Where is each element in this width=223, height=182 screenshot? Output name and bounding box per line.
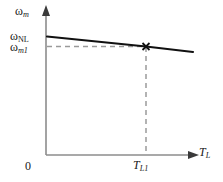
speed-torque-curve [47, 37, 193, 53]
y-tick-m1-subscript: m1 [18, 46, 28, 55]
origin-label: 0 [25, 160, 31, 172]
x-tick-l1-subscript: L1 [140, 164, 149, 173]
y-axis-arrow-icon [42, 5, 50, 16]
speed-torque-characteristic-figure: ωm ωNL ωm1 0 TL1 TL [0, 0, 223, 182]
x-axis-label-subscript: L [206, 151, 211, 160]
y-axis-label-subscript: m [23, 10, 29, 19]
y-axis-label: ωm [15, 5, 29, 17]
x-axis-label-symbol: T [199, 145, 206, 159]
x-tick-label-load-torque-point: TL1 [133, 159, 148, 171]
y-tick-label-operating-speed: ωm1 [10, 41, 28, 53]
y-axis-label-symbol: ω [15, 4, 23, 18]
x-tick-l1-symbol: T [133, 158, 140, 172]
x-axis-arrow-icon [188, 151, 199, 159]
plot-canvas [0, 0, 223, 182]
y-tick-m1-symbol: ω [10, 40, 18, 54]
x-axis-label: TL [199, 146, 210, 158]
